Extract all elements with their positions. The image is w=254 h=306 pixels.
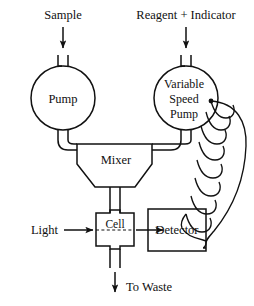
flow-diagram: Sample Reagent + Indicator Pump Variable… [0,0,254,306]
coil-junction-node [209,99,214,104]
detector-label: Detector [155,223,199,237]
cell-label: Cell [105,218,124,230]
mixer-outlet-tube [110,187,120,213]
pump-inlet-tube [58,55,68,66]
pump-outlet-tube [58,129,77,150]
mixer-label: Mixer [101,153,132,167]
variable-speed-pump-label-line2: Speed [169,92,198,106]
pump-label: Pump [48,92,77,106]
variable-speed-pump-outlet-tube [152,129,191,150]
waste-outlet-tube [110,249,120,268]
variable-speed-pump-label-line1: Variable [164,77,204,91]
light-label: Light [31,223,59,237]
reagent-label: Reagent + Indicator [136,8,236,22]
sample-label: Sample [44,8,82,22]
to-waste-label: To Waste [126,280,173,294]
variable-speed-pump-inlet-tube [181,55,191,66]
diagram-canvas: Sample Reagent + Indicator Pump Variable… [0,0,254,306]
variable-speed-pump-label-line3: Pump [170,107,198,121]
